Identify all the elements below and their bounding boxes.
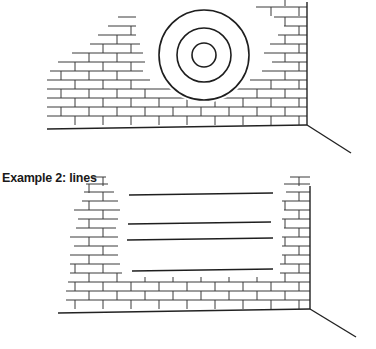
horizontal-lines: [122, 187, 280, 277]
example-1-target-figure: [0, 0, 376, 165]
example-2-lines-figure: Example 2: lines: [0, 165, 376, 349]
perspective-floor-line: [307, 125, 351, 153]
perspective-floor-line: [310, 309, 356, 337]
floor-edge: [58, 309, 310, 313]
target-rings: [156, 7, 252, 103]
floor-edge: [47, 125, 307, 129]
brick-wall-with-target-drawing: [0, 0, 376, 165]
brick-wall-with-lines-drawing: [0, 165, 376, 349]
